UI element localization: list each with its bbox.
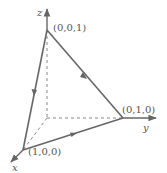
vertex-label-x: (1,0,0) <box>28 146 61 157</box>
vertex-label-z: (0,0,1) <box>53 22 86 33</box>
vertex-label-y: (0,1,0) <box>122 104 155 115</box>
arrow-icon-x-to-y <box>70 133 77 138</box>
triangle-diagram: z y x (0,0,1) (0,1,0) (1,0,0) <box>0 0 167 173</box>
y-axis-label: y <box>142 122 149 133</box>
direction-arrows <box>32 72 88 137</box>
edge-y-to-z <box>47 30 123 118</box>
x-axis <box>11 150 23 162</box>
x-axis-label: x <box>12 162 18 173</box>
triangle-edges <box>23 30 123 150</box>
z-axis-label: z <box>36 7 43 18</box>
arrow-icon-z-to-x <box>32 89 38 96</box>
hidden-axes <box>23 30 123 150</box>
